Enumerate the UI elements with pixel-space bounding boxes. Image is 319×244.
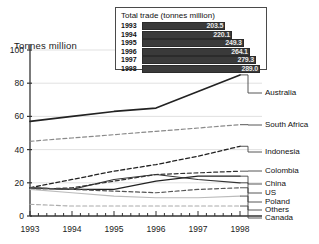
y-tick-label: 20 <box>2 178 24 188</box>
inset-year-label: 1996 <box>121 48 142 56</box>
inset-value-label: 279.3 <box>237 56 256 64</box>
inset-year-label: 1998 <box>121 65 142 73</box>
inset-year-label: 1995 <box>121 39 142 47</box>
y-tick-label: 40 <box>2 145 24 155</box>
y-tick-label: 60 <box>2 111 24 121</box>
series-label-australia: Australia <box>265 88 296 97</box>
trade-line-chart: Tonnes million 020406080100 199319941995… <box>0 0 319 244</box>
x-tick-label: 1995 <box>99 224 129 234</box>
y-tick-label: 80 <box>2 78 24 88</box>
series-label-china: China <box>265 179 286 188</box>
series-line-others <box>30 189 240 197</box>
x-tick-label: 1994 <box>57 224 87 234</box>
inset-year-label: 1994 <box>121 31 142 39</box>
series-label-south-africa: South Africa <box>265 120 308 129</box>
inset-value-label: 289.0 <box>241 65 260 73</box>
inset-row: 1994220.1 <box>121 31 262 39</box>
total-trade-inset: Total trade (tonnes million) 1993203.519… <box>115 7 267 70</box>
inset-bar: 279.3 <box>142 56 256 64</box>
inset-rows: 1993203.51994220.11995249.31996264.11997… <box>121 22 262 73</box>
y-tick-label: 0 <box>2 211 24 221</box>
inset-row: 1996264.1 <box>121 48 262 56</box>
inset-row: 1993203.5 <box>121 22 262 30</box>
inset-value-label: 264.1 <box>231 48 250 56</box>
inset-bar: 220.1 <box>142 31 232 39</box>
inset-row: 1997279.3 <box>121 56 262 64</box>
inset-bar: 289.0 <box>142 65 260 73</box>
series-label-us: US <box>265 188 276 197</box>
inset-row: 1998289.0 <box>121 65 262 73</box>
inset-title: Total trade (tonnes million) <box>121 11 262 20</box>
series-line-canada <box>30 204 240 206</box>
series-line-australia <box>30 75 240 121</box>
legend-leader-line <box>240 188 262 202</box>
x-tick-label: 1996 <box>141 224 171 234</box>
inset-bar: 203.5 <box>142 22 225 30</box>
inset-value-label: 220.1 <box>213 31 232 39</box>
series-label-canada: Canada <box>265 213 293 222</box>
x-tick-label: 1993 <box>15 224 45 234</box>
inset-row: 1995249.3 <box>121 39 262 47</box>
inset-bar: 249.3 <box>142 39 244 47</box>
x-tick-label: 1997 <box>183 224 213 234</box>
inset-bar: 264.1 <box>142 48 250 56</box>
series-label-colombia: Colombia <box>265 166 299 175</box>
series-line-indonesia <box>30 146 240 188</box>
series-label-indonesia: Indonesia <box>265 147 300 156</box>
series-line-south-africa <box>30 125 240 142</box>
inset-year-label: 1997 <box>121 56 142 64</box>
inset-year-label: 1993 <box>121 22 142 30</box>
legend-leader-line <box>240 75 262 93</box>
legend-leader-line <box>240 196 262 210</box>
legend-leader-line <box>240 146 262 152</box>
inset-value-label: 203.5 <box>207 22 226 30</box>
inset-value-label: 249.3 <box>225 39 244 47</box>
y-tick-label: 100 <box>2 45 24 55</box>
x-tick-label: 1998 <box>225 224 255 234</box>
